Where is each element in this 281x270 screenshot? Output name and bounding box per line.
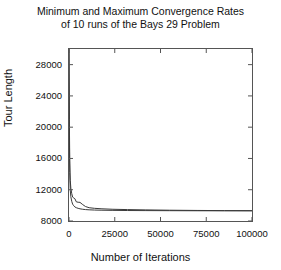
x-tick-label: 100000 — [222, 229, 281, 239]
chart-title-line-2: of 10 runs of the Bays 29 Problem — [0, 18, 281, 31]
y-tick-label: 28000 — [6, 60, 62, 70]
y-tick-label: 20000 — [6, 122, 62, 132]
series-line-maximum — [69, 49, 252, 211]
y-tick-label: 12000 — [6, 185, 62, 195]
y-axis-title: Tour Length — [2, 38, 14, 158]
series-lines — [69, 49, 252, 221]
y-tick-label: 16000 — [6, 153, 62, 163]
chart-title: Minimum and Maximum Convergence Rates of… — [0, 5, 281, 31]
y-tick-label: 8000 — [6, 216, 62, 226]
chart-title-line-1: Minimum and Maximum Convergence Rates — [0, 5, 281, 18]
x-axis-title: Number of Iterations — [0, 251, 281, 263]
y-tick-label: 24000 — [6, 91, 62, 101]
plot-area — [68, 48, 253, 222]
series-line-minimum — [69, 49, 252, 211]
chart-figure: Minimum and Maximum Convergence Rates of… — [0, 0, 281, 270]
